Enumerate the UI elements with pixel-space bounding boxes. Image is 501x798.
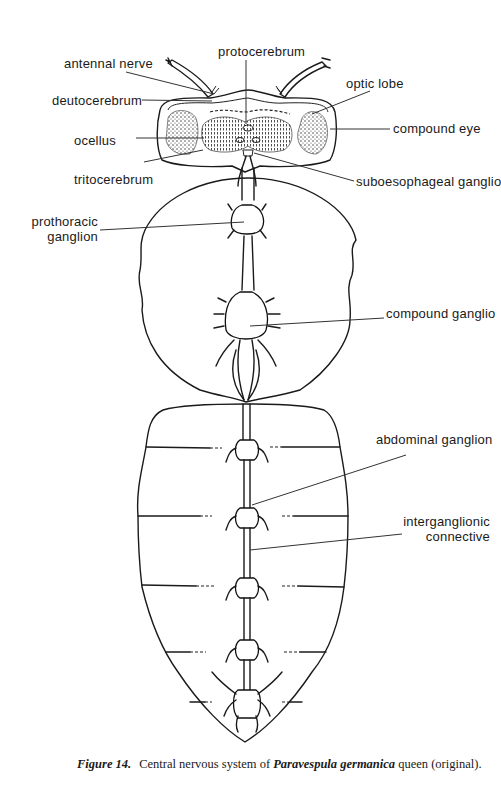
left-compound-eye	[166, 111, 198, 155]
label-ocellus: ocellus	[74, 133, 116, 148]
label-prothoracic-line2: ganglion	[30, 229, 98, 244]
leader-tritocerebrum	[144, 150, 203, 162]
right-compound-eye	[298, 112, 328, 154]
terminal-ganglion	[234, 690, 261, 718]
label-deutocerebrum: deutocerebrum	[52, 93, 142, 108]
left-antenna	[168, 60, 213, 97]
caption-text-after: queen (original).	[395, 757, 481, 771]
label-antennal-nerve: antennal nerve	[64, 56, 153, 71]
prothoracic-ganglion-shape	[231, 205, 263, 234]
label-interganglionic-line2: connective	[386, 529, 490, 544]
label-protocerebrum: protocerebrum	[218, 44, 305, 59]
brain	[202, 117, 292, 152]
label-interganglionic-connective: interganglionic connective	[386, 514, 490, 544]
leader-prothoracic	[100, 222, 244, 230]
leader-abdominal-ganglion	[252, 455, 406, 505]
label-suboesophageal-ganglion: suboesophageal ganglio	[356, 174, 501, 189]
leader-deutocerebrum	[142, 100, 212, 101]
abdomen	[138, 404, 348, 742]
caption-species: Paravespula germanica	[273, 757, 395, 771]
right-antenna	[280, 62, 326, 97]
figure-caption: Figure 14.Central nervous system of Para…	[77, 757, 482, 772]
label-compound-eye: compound eye	[393, 121, 481, 136]
label-tritocerebrum: tritocerebrum	[74, 172, 153, 187]
caption-text-before: Central nervous system of	[139, 757, 273, 771]
compound-ganglion-shape	[225, 292, 267, 339]
leader-interganglionic	[250, 534, 402, 550]
label-compound-ganglion: compound ganglio	[386, 306, 495, 321]
label-abdominal-ganglion: abdominal ganglion	[376, 432, 492, 447]
label-optic-lobe: optic lobe	[346, 76, 404, 91]
label-prothoracic-ganglion: prothoracic ganglion	[30, 214, 98, 244]
leader-antennal-nerve	[126, 72, 214, 94]
leader-optic-lobe	[312, 91, 370, 114]
thorax	[139, 178, 356, 402]
leader-compound-ganglion	[250, 318, 384, 326]
label-prothoracic-line1: prothoracic	[30, 214, 98, 229]
abdominal-ganglia	[212, 440, 282, 732]
figure-number: Figure 14.	[77, 757, 131, 771]
suboesophageal-ganglion	[243, 150, 253, 156]
label-interganglionic-line1: interganglionic	[386, 514, 490, 529]
